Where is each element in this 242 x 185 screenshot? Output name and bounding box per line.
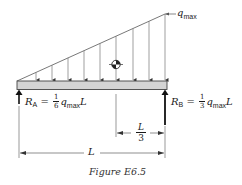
beam xyxy=(17,81,167,90)
reaction-arrow-b xyxy=(162,90,169,126)
fraction-one-third: 13 xyxy=(199,93,205,110)
fraction-one-sixth: 16 xyxy=(53,93,59,110)
centroid-icon xyxy=(109,60,123,68)
reaction-b-label: RB = 13qmaxL xyxy=(171,94,233,111)
distributed-load xyxy=(17,13,176,82)
reaction-arrow-a xyxy=(16,90,23,105)
beam-diagram xyxy=(0,0,242,185)
reaction-a-label: RA = 16qmaxL xyxy=(25,94,87,111)
dimension-l-third-label: L 3 xyxy=(134,122,148,143)
qmax-label: qmax xyxy=(177,8,197,18)
dimension-l-label: L xyxy=(88,147,95,157)
figure-caption: Figure E6.5 xyxy=(89,167,146,177)
